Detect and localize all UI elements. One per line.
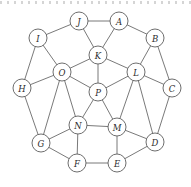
graph-edge-L-P: [106, 76, 128, 88]
graph-edge-L-M: [120, 81, 133, 119]
node-circle-C[interactable]: [163, 79, 181, 97]
graph-edge-G-N: [49, 129, 70, 139]
graph-node-N[interactable]: N: [69, 116, 87, 134]
node-circle-N[interactable]: [69, 116, 87, 134]
graph-node-I[interactable]: I: [29, 29, 47, 47]
graph-edge-N-P: [83, 100, 94, 118]
graph-node-L[interactable]: L: [127, 63, 145, 81]
graph-node-G[interactable]: G: [32, 134, 50, 152]
graph-edge-J-I: [46, 24, 70, 34]
node-layer: ABCDEFGHIJKLMNOP: [13, 12, 181, 172]
graph-edge-M-P: [102, 100, 112, 119]
node-circle-F[interactable]: [68, 154, 86, 172]
graph-node-B[interactable]: B: [146, 29, 164, 47]
node-circle-O[interactable]: [53, 63, 71, 81]
graph-edge-N-O: [65, 81, 76, 117]
graph-node-E[interactable]: E: [108, 154, 126, 172]
graph-edge-I-O: [43, 45, 57, 64]
graph-edge-H-O: [30, 75, 53, 84]
graph-node-C[interactable]: C: [163, 79, 181, 97]
graph-node-K[interactable]: K: [89, 46, 107, 64]
graph-edge-A-B: [127, 25, 147, 34]
node-circle-G[interactable]: [32, 134, 50, 152]
graph-node-O[interactable]: O: [53, 63, 71, 81]
graph-node-D[interactable]: D: [146, 133, 164, 151]
node-circle-L[interactable]: [127, 63, 145, 81]
graph-edge-M-N: [87, 125, 108, 126]
graph-edge-F-N: [77, 134, 78, 154]
graph-edge-A-K: [103, 29, 115, 48]
graph-edge-B-L: [140, 46, 150, 64]
graph-figure: ABCDEFGHIJKLMNOP: [0, 0, 191, 187]
graph-edge-G-O: [44, 81, 60, 135]
graph-edge-J-K: [83, 29, 93, 47]
node-circle-A[interactable]: [110, 12, 128, 30]
graph-node-M[interactable]: M: [108, 118, 126, 136]
node-circle-I[interactable]: [29, 29, 47, 47]
graph-edge-F-G: [49, 147, 69, 158]
graph-edge-C-L: [144, 76, 164, 85]
node-circle-J[interactable]: [70, 12, 88, 30]
graph-edge-B-C: [158, 47, 169, 80]
graph-node-H[interactable]: H: [13, 79, 31, 97]
graph-node-J[interactable]: J: [70, 12, 88, 30]
graph-node-A[interactable]: A: [110, 12, 128, 30]
graph-edge-G-H: [25, 97, 38, 135]
node-circle-D[interactable]: [146, 133, 164, 151]
node-circle-M[interactable]: [108, 118, 126, 136]
node-circle-P[interactable]: [89, 83, 107, 101]
graph-edge-H-I: [25, 47, 36, 80]
node-circle-E[interactable]: [108, 154, 126, 172]
graph-edge-O-P: [70, 76, 90, 87]
graph-edge-K-O: [70, 59, 90, 68]
graph-node-P[interactable]: P: [89, 83, 107, 101]
graph-edge-K-L: [106, 59, 128, 69]
graph-edge-D-M: [125, 130, 146, 138]
graph-canvas: ABCDEFGHIJKLMNOP: [0, 0, 191, 187]
node-circle-H[interactable]: [13, 79, 31, 97]
node-circle-B[interactable]: [146, 29, 164, 47]
graph-edge-C-D: [158, 97, 170, 134]
graph-node-F[interactable]: F: [68, 154, 86, 172]
graph-edge-D-L: [138, 81, 152, 134]
node-circle-K[interactable]: [89, 46, 107, 64]
graph-edge-D-E: [125, 146, 147, 158]
